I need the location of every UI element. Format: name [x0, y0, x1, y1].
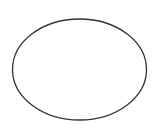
diagram-canvas [0, 0, 157, 131]
ellipse-shape [13, 19, 147, 120]
ellipse-drawing [0, 0, 157, 131]
